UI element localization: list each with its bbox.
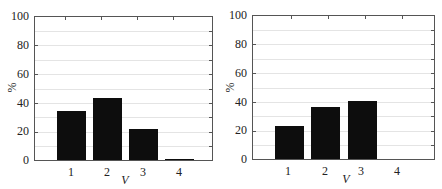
y-tick — [35, 45, 38, 46]
y-tick — [209, 45, 212, 46]
x-tick — [402, 16, 403, 19]
gridline — [35, 89, 212, 90]
y-tick-label: 60 — [3, 68, 29, 80]
y-tick — [431, 44, 434, 45]
y-tick — [35, 74, 38, 75]
gridline — [253, 102, 434, 103]
y-tick — [253, 73, 256, 74]
x-axis-title: V — [336, 172, 356, 187]
gridline — [253, 44, 434, 45]
y-tick — [253, 102, 256, 103]
gridline — [35, 60, 212, 61]
x-tick-label: 2 — [99, 166, 115, 178]
y-tick — [431, 102, 434, 103]
gridline — [253, 116, 434, 117]
y-tick — [209, 103, 212, 104]
gridline — [35, 74, 212, 75]
y-tick-label: 40 — [3, 97, 29, 109]
gridline — [253, 88, 434, 89]
y-tick — [253, 131, 256, 132]
y-tick-label: 0 — [221, 153, 247, 165]
gridline — [35, 103, 212, 104]
bar-2 — [311, 107, 340, 159]
x-tick — [65, 17, 66, 20]
x-tick — [365, 16, 366, 19]
y-tick — [431, 73, 434, 74]
gridline — [253, 73, 434, 74]
y-tick — [209, 132, 212, 133]
y-tick — [431, 131, 434, 132]
x-tick-label: 4 — [171, 166, 187, 178]
gridline — [253, 30, 434, 31]
y-tick-label: 40 — [221, 96, 247, 108]
bar-1 — [57, 111, 86, 160]
y-tick-label: 80 — [221, 38, 247, 50]
x-tick-label: 2 — [317, 165, 333, 177]
x-tick-label: 1 — [63, 166, 79, 178]
chart-left: % 100 80 60 40 20 0 1 2 — [0, 0, 221, 189]
x-tick — [173, 17, 174, 20]
y-tick — [209, 60, 212, 61]
x-tick-label: 4 — [389, 165, 405, 177]
y-tick — [209, 74, 212, 75]
y-tick — [35, 103, 38, 104]
gridline — [35, 45, 212, 46]
y-tick — [431, 30, 434, 31]
x-tick — [328, 16, 329, 19]
y-tick — [209, 31, 212, 32]
y-tick — [209, 146, 212, 147]
y-tick-label: 20 — [3, 125, 29, 137]
plot-area — [34, 16, 213, 161]
y-tick — [431, 88, 434, 89]
bar-2 — [93, 98, 122, 160]
bar-4 — [165, 159, 194, 160]
y-tick-label: 60 — [221, 67, 247, 79]
y-tick — [35, 132, 38, 133]
x-tick — [137, 17, 138, 20]
y-tick-label: 20 — [221, 124, 247, 136]
y-tick — [209, 117, 212, 118]
y-tick — [431, 145, 434, 146]
y-tick — [431, 59, 434, 60]
chart-right: % 100 80 60 40 20 0 1 2 3 — [221, 0, 442, 189]
y-tick — [253, 44, 256, 45]
x-axis-title: V — [115, 173, 135, 188]
x-tick-label: 3 — [135, 166, 151, 178]
bar-3 — [129, 129, 158, 160]
x-tick — [101, 17, 102, 20]
y-tick — [431, 116, 434, 117]
y-tick-label: 80 — [3, 39, 29, 51]
gridline — [35, 31, 212, 32]
x-tick-label: 1 — [280, 165, 296, 177]
bar-3 — [348, 101, 377, 159]
plot-area — [252, 15, 435, 160]
bar-1 — [275, 126, 304, 159]
x-tick — [291, 16, 292, 19]
y-tick — [209, 89, 212, 90]
y-tick-label: 0 — [3, 154, 29, 166]
y-tick-label: 100 — [221, 9, 247, 21]
y-tick-label: 100 — [3, 10, 29, 22]
gridline — [253, 59, 434, 60]
